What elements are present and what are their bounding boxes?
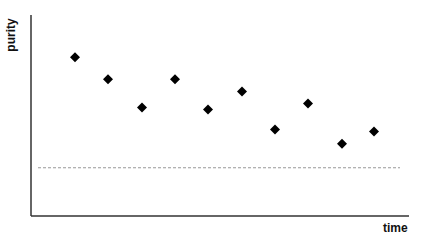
diamond-marker bbox=[337, 139, 347, 149]
diamond-marker bbox=[303, 98, 313, 108]
data-points bbox=[70, 52, 379, 148]
x-axis-label: time bbox=[383, 221, 408, 235]
diamond-marker bbox=[170, 74, 180, 84]
diamond-marker bbox=[137, 102, 147, 112]
diamond-marker bbox=[270, 125, 280, 135]
diamond-marker bbox=[70, 52, 80, 62]
y-axis-label: purity bbox=[4, 16, 24, 56]
diamond-marker bbox=[103, 74, 113, 84]
scatter-chart bbox=[0, 0, 425, 243]
diamond-marker bbox=[237, 86, 247, 96]
y-axis-label-text: purity bbox=[4, 18, 18, 51]
diamond-marker bbox=[203, 104, 213, 114]
diamond-marker bbox=[369, 127, 379, 137]
